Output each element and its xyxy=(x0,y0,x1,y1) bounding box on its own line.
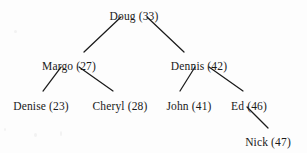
tree-node-john: John (41) xyxy=(166,100,211,112)
tree-edge-doug-dennis xyxy=(147,17,184,52)
tree-node-doug: Doug (33) xyxy=(110,10,159,22)
scan-speck xyxy=(14,30,17,33)
tree-edge-layer xyxy=(0,0,307,153)
scan-speck xyxy=(4,128,6,131)
family-tree-diagram: Doug (33)Margo (27)Dennis (42)Denise (23… xyxy=(0,0,307,153)
scan-speck xyxy=(34,133,37,137)
tree-node-dennis: Dennis (42) xyxy=(171,60,227,72)
tree-node-denise: Denise (23) xyxy=(13,100,69,112)
tree-node-nick: Nick (47) xyxy=(245,136,291,148)
tree-node-ed: Ed (46) xyxy=(231,100,267,112)
tree-edge-doug-margo xyxy=(84,17,121,52)
tree-node-cheryl: Cheryl (28) xyxy=(93,100,148,112)
tree-node-margo: Margo (27) xyxy=(42,60,96,72)
scan-speck xyxy=(60,131,62,136)
